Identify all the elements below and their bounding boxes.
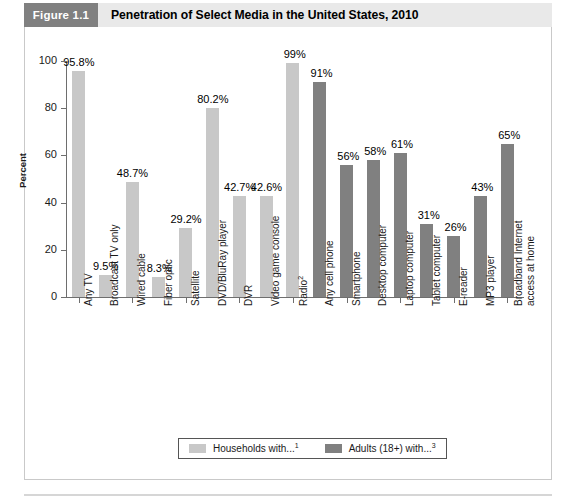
- x-category-label: Broadcast TV only: [109, 224, 121, 306]
- x-tick-mark: [132, 298, 133, 303]
- x-category-label: Wired cable: [136, 253, 148, 306]
- bar-value-label: 95.8%: [63, 57, 94, 68]
- x-tick-mark: [347, 298, 348, 303]
- y-tick-mark: [61, 155, 66, 156]
- x-tick-mark: [400, 298, 401, 303]
- y-tick-label: 40: [27, 197, 57, 208]
- x-category-label: Satellite: [190, 270, 202, 306]
- bar-value-label: 61%: [391, 139, 413, 150]
- bar-chart-plot: 020406080100 Percent 95.8%9.5%48.7%8.3%2…: [0, 0, 563, 502]
- y-tick-mark: [61, 250, 66, 251]
- legend-item: Adults (18+) with...3: [325, 442, 436, 454]
- x-category-label: Broadband Internetaccess at home: [513, 196, 536, 306]
- y-tick-label: 100: [27, 55, 57, 66]
- x-axis-line: [66, 297, 524, 298]
- bar-value-label: 29.2%: [170, 214, 201, 225]
- x-category-label: DVR: [243, 285, 255, 306]
- legend-item: Households with...1: [189, 442, 299, 454]
- legend-swatch: [189, 444, 206, 453]
- bar-value-label: 31%: [418, 210, 440, 221]
- legend-label: Adults (18+) with...3: [349, 442, 436, 454]
- x-tick-mark: [79, 298, 80, 303]
- legend-label: Households with...1: [213, 442, 299, 454]
- x-category-label: Tablet computer: [431, 235, 443, 306]
- bar: [501, 144, 514, 297]
- y-tick-mark: [61, 108, 66, 109]
- x-tick-mark: [454, 298, 455, 303]
- x-category-label: E-reader: [458, 267, 470, 306]
- y-tick-label: 0: [27, 291, 57, 302]
- y-axis-tick-labels: 020406080100: [25, 0, 57, 502]
- x-category-label: Desktop computer: [377, 225, 389, 306]
- y-tick-label: 80: [27, 102, 57, 113]
- bar-value-label: 58%: [364, 146, 386, 157]
- bar-value-label: 99%: [284, 49, 306, 60]
- x-tick-mark: [293, 298, 294, 303]
- x-category-label: Any TV: [83, 273, 95, 306]
- y-tick-mark: [61, 203, 66, 204]
- bar-value-label: 43%: [471, 182, 493, 193]
- bar-value-label: 26%: [445, 222, 467, 233]
- x-category-label: Radio2: [297, 276, 310, 306]
- bar: [233, 196, 246, 297]
- x-tick-mark: [239, 298, 240, 303]
- x-tick-mark: [186, 298, 187, 303]
- x-category-label: MP3 player: [485, 255, 497, 306]
- y-tick-label: 60: [27, 149, 57, 160]
- bar-value-label: 42.6%: [251, 182, 282, 193]
- legend-swatch: [325, 444, 342, 453]
- y-axis-line: [66, 61, 67, 298]
- x-category-label: Video game console: [270, 216, 282, 306]
- x-category-label: DVD/BluRay player: [217, 220, 229, 306]
- chart-legend: Households with...1Adults (18+) with...3: [178, 438, 447, 459]
- bar-value-label: 91%: [311, 68, 333, 79]
- bar-value-label: 65%: [498, 130, 520, 141]
- bar-value-label: 80.2%: [197, 94, 228, 105]
- y-tick-mark: [61, 297, 66, 298]
- y-tick-mark: [61, 61, 66, 62]
- x-category-label: Fiber optic: [163, 259, 175, 306]
- x-category-label: Laptop computer: [404, 231, 416, 306]
- x-tick-mark: [507, 298, 508, 303]
- bar: [286, 63, 299, 297]
- bar-value-label: 48.7%: [117, 168, 148, 179]
- x-category-label: Any cell phone: [324, 240, 336, 306]
- x-category-label: Smartphone: [351, 252, 363, 306]
- bar-value-label: 56%: [337, 151, 359, 162]
- figure-container: Figure 1.1 Penetration of Select Media i…: [0, 0, 563, 502]
- y-tick-label: 20: [27, 244, 57, 255]
- bar: [72, 71, 85, 297]
- y-axis-title: Percent: [17, 131, 28, 211]
